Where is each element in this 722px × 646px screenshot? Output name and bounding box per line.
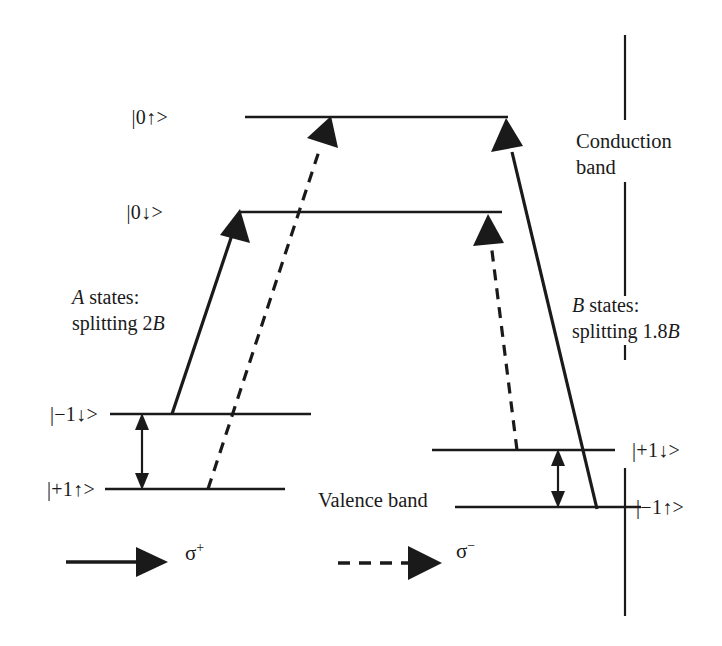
svg-text:σ−: σ− <box>456 538 475 563</box>
b-states-splitting-value: B <box>668 320 680 342</box>
valence-band-label: Valence band <box>318 489 428 511</box>
svg-text:B states:: B states: <box>572 294 639 316</box>
arrowhead-splitting-left-down <box>135 473 149 490</box>
annotation-a-states: A states: splitting 2B <box>70 286 165 335</box>
transition-sigma-minus-right <box>473 214 517 450</box>
splitting-arrow-left <box>135 413 149 490</box>
svg-text:σ+: σ+ <box>185 540 204 565</box>
b-states-word: states: <box>584 294 639 316</box>
transition-sigma-plus-left <box>172 209 250 414</box>
legend-sigma-minus-superscript: − <box>467 538 475 553</box>
a-states-splitting-value: B <box>153 312 165 334</box>
legend-sigma-plus-superscript: + <box>196 540 204 555</box>
svg-text:splitting 1.8B: splitting 1.8B <box>572 320 680 343</box>
arrowhead-sigma-minus-right <box>473 214 504 246</box>
legend-item-sigma-plus: σ+ <box>66 540 204 577</box>
a-states-splitting-word: splitting 2 <box>72 312 153 335</box>
svg-text:A states:: A states: <box>70 286 139 308</box>
figure-root: |0↑> |0↓> |−1↓> |+1↑> |+1↓> |−1↑> Conduc… <box>0 0 722 646</box>
legend-sigma-plus-symbol: σ <box>185 541 196 565</box>
level-label-valence-left-upper: |−1↓> <box>50 403 98 426</box>
arrowhead-sigma-minus-left <box>307 116 338 148</box>
annotation-b-states: B states: splitting 1.8B <box>572 294 680 343</box>
transition-sigma-minus-left <box>208 116 338 489</box>
level-label-conduction-lower: |0↓> <box>127 201 163 224</box>
splitting-arrow-right <box>551 449 565 508</box>
level-label-valence-right-lower: |−1↑> <box>636 496 684 519</box>
svg-text:splitting 2B: splitting 2B <box>72 312 165 335</box>
arrowhead-sigma-plus-left <box>220 209 250 243</box>
legend-sigma-minus-symbol: σ <box>456 539 467 563</box>
energy-level-diagram: |0↑> |0↓> |−1↓> |+1↑> |+1↓> |−1↑> Conduc… <box>0 0 722 646</box>
arrowhead-sigma-plus-right <box>491 118 523 152</box>
arrowhead-splitting-right-up <box>551 449 565 466</box>
a-states-group-letter: A <box>70 286 85 308</box>
arrowhead-splitting-left-up <box>135 413 149 430</box>
level-label-valence-right-upper: |+1↓> <box>632 439 680 462</box>
conduction-band-label-line2: band <box>576 156 616 178</box>
b-states-splitting-word: splitting 1.8 <box>572 320 668 343</box>
a-states-word: states: <box>84 286 139 308</box>
level-label-valence-left-lower: |+1↑> <box>47 478 95 501</box>
legend-arrowhead-dashed <box>408 546 442 580</box>
legend-arrowhead-solid <box>136 547 168 577</box>
arrowhead-splitting-right-down <box>551 491 565 508</box>
level-label-conduction-upper: |0↑> <box>132 106 168 129</box>
conduction-band-label-line1: Conduction <box>576 130 672 152</box>
legend-item-sigma-minus: σ− <box>338 538 475 580</box>
b-states-group-letter: B <box>572 294 584 316</box>
